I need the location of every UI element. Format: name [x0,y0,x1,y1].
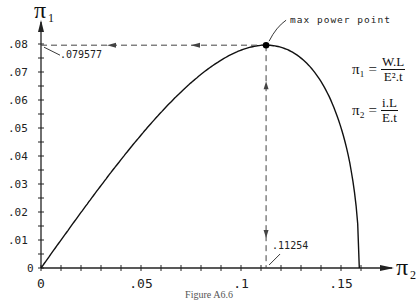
y-tick-label: .02 [8,206,28,219]
x-axis-title-sub: 2 [410,268,416,282]
equation-pi2: π₂ = i.L E.t [352,96,398,125]
fraction-pi1: W.L E².t [381,55,405,84]
y-value-pointer [44,47,60,55]
y-tick-label: 0 [27,262,34,275]
x-axis-title: π [396,254,408,280]
equation-pi1-lhs: π₁ = [352,61,377,78]
guide-arrow-down-icon [264,230,269,238]
y-value-label: .079577 [60,49,102,60]
y-tick-label: .03 [8,178,28,191]
data-curve [41,45,359,268]
pi1-denominator: E².t [384,70,403,84]
max-point-pointer [269,20,286,41]
chart-canvas: 0.01.02.03.04.05.06.07.080.05.1.15π1π2ma… [0,0,418,300]
equation-pi1: π₁ = W.L E².t [352,55,405,84]
pi2-denominator: E.t [382,111,397,125]
y-axis-title-sub: 1 [48,11,54,25]
figure-caption: Figure A6.6 [0,289,418,300]
guide-arrow-up-icon [264,81,269,89]
pi1-numerator: W.L [381,55,405,70]
guide-arrow-left-icon [107,43,116,48]
y-tick-label: .04 [8,150,28,163]
guide-arrow-left-icon [191,43,200,48]
x-value-pointer [269,254,280,265]
y-tick-label: .06 [8,94,28,107]
y-tick-label: .08 [8,38,28,51]
pi2-numerator: i.L [381,96,398,111]
x-axis-arrow-icon [380,265,394,271]
max-power-point-label: max power point [290,14,391,25]
equation-pi2-lhs: π₂ = [352,102,377,119]
y-axis-title: π [34,0,46,23]
max-power-point-marker [263,42,270,49]
x-value-label: .11254 [272,240,308,251]
y-tick-label: .07 [8,66,28,79]
y-tick-label: .01 [8,234,28,247]
y-tick-label: .05 [8,122,28,135]
fraction-pi2: i.L E.t [381,96,398,125]
